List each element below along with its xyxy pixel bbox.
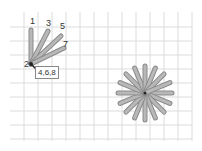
- stacked-rays-label: 4,6,8: [35, 66, 59, 79]
- ray-label-3: 3: [46, 19, 51, 28]
- ray-label-2: 2: [24, 60, 29, 69]
- ray-label-5: 5: [60, 22, 65, 31]
- ray-label-1: 1: [30, 17, 35, 26]
- starburst: [118, 66, 172, 120]
- fan-rays: [29, 30, 64, 69]
- ray-label-7: 7: [63, 40, 68, 49]
